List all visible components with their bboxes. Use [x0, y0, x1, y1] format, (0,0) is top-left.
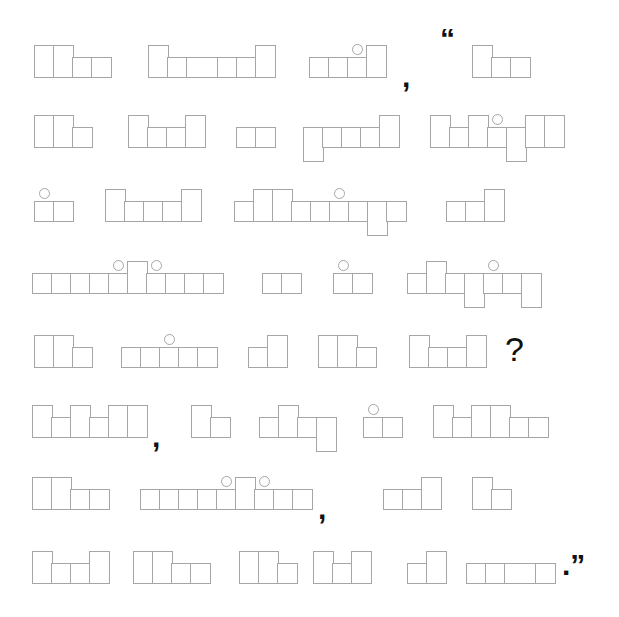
letter-box	[528, 417, 549, 438]
letter-box	[166, 127, 187, 148]
letter-box	[360, 127, 381, 148]
letter-box	[167, 57, 188, 78]
letter-box	[236, 57, 257, 78]
letter-box	[51, 563, 72, 584]
puzzle-line: .”	[32, 524, 602, 584]
letter-box	[89, 489, 110, 510]
letter-box	[89, 551, 110, 584]
letter-box	[407, 563, 428, 584]
letter-dot	[151, 260, 162, 271]
puzzle-line: ?	[32, 308, 602, 368]
letter-box	[303, 127, 324, 162]
puzzle-line: ,	[32, 378, 602, 438]
letter-box	[253, 189, 274, 222]
letter-box	[148, 45, 169, 78]
letter-box	[181, 189, 202, 222]
letter-box	[190, 563, 211, 584]
letter-box	[426, 551, 447, 584]
letter-box	[197, 347, 218, 368]
punctuation-mark: .”	[562, 550, 585, 580]
letter-box	[430, 115, 451, 148]
letter-box	[464, 273, 485, 308]
letter-box	[105, 189, 126, 222]
letter-box	[171, 563, 192, 584]
letter-box	[72, 127, 93, 148]
letter-box	[191, 405, 212, 438]
letter-box	[491, 57, 512, 78]
letter-box	[506, 127, 527, 162]
letter-box	[70, 405, 91, 438]
letter-box	[159, 489, 180, 510]
letter-box	[32, 273, 53, 294]
letter-box	[466, 563, 487, 584]
letter-box	[277, 563, 298, 584]
letter-box	[272, 189, 293, 222]
letter-box	[32, 551, 53, 584]
letter-box	[259, 417, 280, 438]
letter-box	[465, 201, 486, 222]
letter-box	[428, 347, 449, 368]
letter-box	[484, 189, 505, 222]
letter-box	[248, 347, 269, 368]
letter-box	[446, 201, 467, 222]
letter-box	[53, 201, 74, 222]
letter-box	[472, 477, 493, 510]
letter-box	[402, 489, 423, 510]
letter-box	[128, 115, 149, 148]
letter-box	[254, 489, 275, 510]
letter-box	[146, 273, 167, 294]
letter-box	[258, 551, 279, 584]
letter-box	[216, 489, 237, 510]
letter-box	[309, 57, 330, 78]
letter-box	[124, 201, 145, 222]
letter-box	[322, 127, 343, 148]
letter-box	[341, 127, 362, 148]
letter-box	[366, 45, 387, 78]
letter-box	[186, 57, 219, 78]
puzzle-line: ,“	[32, 18, 602, 78]
letter-box	[53, 115, 74, 148]
letter-box	[32, 405, 53, 438]
letter-box	[310, 201, 331, 222]
letter-box	[159, 347, 180, 368]
letter-box	[333, 273, 354, 294]
letter-box	[34, 335, 55, 368]
letter-box	[178, 347, 199, 368]
letter-box	[72, 347, 93, 368]
letter-box	[273, 489, 294, 510]
letter-box	[466, 335, 487, 368]
letter-box	[278, 405, 299, 438]
letter-box	[502, 273, 523, 294]
letter-box	[347, 57, 368, 78]
letter-box	[383, 489, 404, 510]
letter-box	[521, 273, 542, 308]
letter-dot	[352, 44, 363, 55]
puzzle-line	[32, 162, 602, 222]
letter-box	[235, 477, 256, 510]
letter-box	[329, 201, 350, 222]
letter-box	[348, 201, 369, 222]
letter-dot	[338, 260, 349, 271]
letter-box	[472, 45, 493, 78]
letter-box	[328, 57, 349, 78]
letter-box	[162, 201, 183, 222]
letter-dot	[39, 188, 50, 199]
letter-box	[184, 273, 205, 294]
letter-box	[34, 201, 55, 222]
letter-box	[53, 335, 74, 368]
letter-box	[51, 273, 72, 294]
letter-box	[89, 417, 110, 438]
letter-box	[510, 57, 531, 78]
letter-box	[236, 127, 257, 148]
letter-box	[121, 347, 142, 368]
letter-box	[487, 127, 508, 148]
letter-box	[447, 347, 468, 368]
letter-box	[210, 417, 231, 438]
letter-box	[471, 405, 492, 438]
letter-box	[281, 273, 302, 294]
letter-box	[407, 273, 428, 294]
letter-box	[203, 273, 224, 294]
letter-box	[332, 563, 353, 584]
letter-box	[143, 201, 164, 222]
letter-box	[255, 45, 276, 78]
